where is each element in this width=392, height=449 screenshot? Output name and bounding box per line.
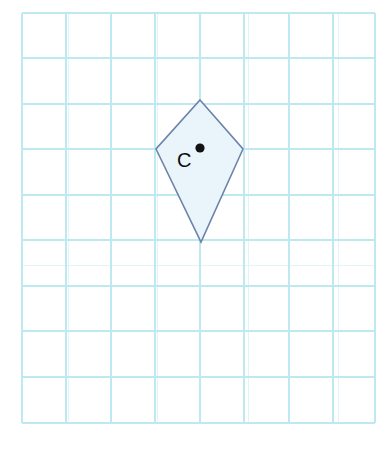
- kite-polygon: [156, 100, 243, 242]
- point-label-c: C: [177, 149, 191, 171]
- geometry-figure: Kite with center point C on a grid: [0, 0, 392, 449]
- center-point-dot: [195, 143, 204, 152]
- figure-canvas: Kite with center point C on a grid: [0, 0, 392, 449]
